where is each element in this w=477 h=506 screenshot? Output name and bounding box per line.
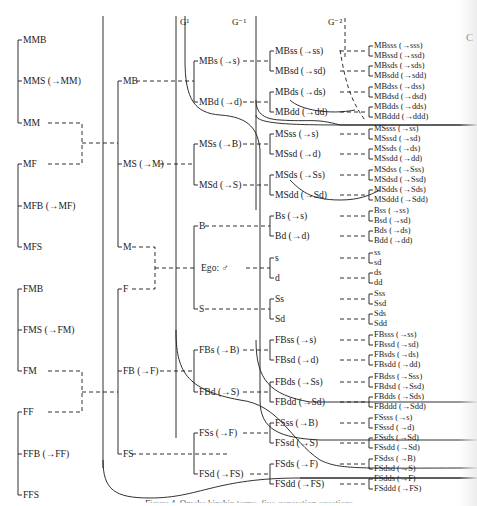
term-gen-minus-3: MBdds (→dds) (374, 102, 426, 111)
term-gen-minus-3: MBssd (→ssd) (374, 51, 425, 60)
term-gen-minus-3: FBsds (→ds) (374, 350, 418, 359)
term-gen-minus-3: FBsdd (→dd) (374, 360, 420, 369)
term-gen-minus-3: Bds (→ds) (374, 226, 411, 235)
term-ego: Ego: ♂ (201, 263, 229, 273)
term-s: S (199, 304, 204, 314)
term-gen-minus-2: FBds (→Ss) (275, 377, 323, 387)
term-fms: FMS (→FM) (23, 325, 74, 335)
term-gen-minus-2: MSsd (→d) (275, 149, 321, 159)
term-fbs: FBs (→B) (199, 345, 239, 355)
term-gen-minus-2: FSsd (→S) (275, 438, 318, 448)
term-gen-minus-3: ss (374, 248, 381, 257)
term-gen-minus-2: Bs (→s) (275, 211, 307, 221)
term-gen-minus-3: FBsss (→ss) (374, 330, 417, 339)
term-mbd: MBd (→d) (199, 97, 242, 107)
term-gen-minus-2: MSss (→s) (275, 129, 318, 139)
term-mbs: MBs (→s) (199, 56, 240, 66)
term-msd: MSd (→S) (199, 180, 241, 190)
term-ff: FF (23, 407, 34, 417)
term-gen-minus-2: MSds (→Ss) (275, 170, 325, 180)
term-f: F (123, 284, 128, 294)
term-gen-minus-2: Bd (→d) (275, 231, 309, 241)
term-gen-minus-3: Sds (374, 309, 386, 318)
term-gen-minus-3: Bdd (→dd) (374, 236, 412, 245)
term-mfs: MFS (23, 242, 42, 252)
term-gen-minus-2: FSdd (→FS) (275, 479, 324, 489)
term-gen-minus-3: FBdds (→Sds) (374, 392, 424, 401)
term-gen-minus-3: FSsss (→s) (374, 413, 412, 422)
term-m: M (123, 242, 132, 252)
term-gen-minus-2: FBss (→s) (275, 335, 316, 345)
term-mb: MB (123, 76, 138, 86)
term-gen-minus-2: d (275, 273, 280, 283)
term-b: B (199, 221, 205, 231)
term-gen-minus-2: MBdd (→dd) (275, 107, 328, 117)
term-fsd: FSd (→FS) (199, 469, 244, 479)
term-ffs: FFS (23, 490, 39, 500)
term-gen-minus-3: sd (374, 258, 381, 267)
term-gen-minus-2: MSdd (→Sd) (275, 190, 327, 200)
term-mms: MMS (→MM) (23, 76, 81, 86)
term-mmb: MMB (23, 35, 46, 45)
page-edge-shadow (459, 0, 477, 506)
term-ms: MS (→M) (123, 159, 164, 169)
term-mss: MSs (→B) (199, 139, 241, 149)
term-gen-minus-3: MSsds (→ds) (374, 144, 420, 153)
generation-label-g-minus-2: G⁻² (328, 17, 342, 27)
term-gen-minus-3: FSdss (→B) (374, 454, 416, 463)
term-gen-minus-3: FSsdd (→Sd) (374, 443, 420, 452)
term-fs: FS (123, 449, 134, 459)
term-gen-minus-3: MSsss (→ss) (374, 124, 418, 133)
term-mf: MF (23, 159, 37, 169)
term-gen-minus-2: FSss (→B) (275, 418, 318, 428)
term-gen-minus-3: Ssd (374, 299, 386, 308)
term-gen-minus-3: MBddd (→ddd) (374, 112, 428, 121)
term-gen-minus-3: FBddd (→Sdd) (374, 402, 426, 411)
term-fm: FM (23, 366, 37, 376)
term-gen-minus-2: FBsd (→d) (275, 355, 318, 365)
generation-label-g1: G¹ (180, 17, 189, 27)
term-gen-minus-3: FBdss (→Sss) (374, 372, 422, 381)
term-gen-minus-2: Sd (275, 314, 285, 324)
term-fb: FB (→F) (123, 366, 158, 376)
term-gen-minus-3: FSddd (→FS) (374, 484, 421, 493)
term-gen-minus-3: MBdsd (→dsd) (374, 92, 426, 101)
term-gen-minus-3: FSdds (→F) (374, 474, 416, 483)
term-gen-minus-3: dd (374, 278, 382, 287)
term-gen-minus-2: Ss (275, 294, 284, 304)
term-gen-minus-3: FSdsd (→S) (374, 464, 416, 473)
term-gen-minus-3: MSdsd (→Ssd) (374, 175, 426, 184)
term-gen-minus-3: MSdss (→Sss) (374, 165, 424, 174)
term-gen-minus-3: MSssd (→sd) (374, 134, 420, 143)
term-gen-minus-3: MBsdd (→sdd) (374, 71, 426, 80)
term-gen-minus-3: MSddd (→Sdd) (374, 195, 428, 204)
term-mfb: MFB (→MF) (23, 201, 76, 211)
term-gen-minus-3: FSssd (→d) (374, 423, 414, 432)
term-gen-minus-3: MSdds (→Sds) (374, 185, 426, 194)
term-gen-minus-2: FBdd (→Sd) (275, 397, 325, 407)
term-gen-minus-2: MBss (→ss) (275, 46, 323, 56)
term-fss: FSs (→F) (199, 428, 237, 438)
term-gen-minus-3: FBdsd (→Ssd) (374, 382, 424, 391)
term-gen-minus-3: MBsds (→sds) (374, 61, 425, 70)
term-gen-minus-3: MBdss (→dss) (374, 82, 425, 91)
term-gen-minus-3: Bss (→ss) (374, 206, 409, 215)
term-gen-minus-3: FBssd (→sd) (374, 340, 418, 349)
term-gen-minus-2: MBsd (→sd) (275, 66, 325, 76)
term-gen-minus-3: Bsd (→sd) (374, 216, 411, 225)
term-fmb: FMB (23, 284, 43, 294)
term-gen-minus-3: Sdd (374, 319, 387, 328)
term-gen-minus-3: FSsds (→Sd) (374, 433, 419, 442)
term-ffb: FFB (→FF) (23, 449, 69, 459)
generation-label-g-minus-1: G⁻¹ (232, 17, 246, 27)
term-fbd: FBd (→S) (199, 387, 239, 397)
term-gen-minus-3: ds (374, 268, 381, 277)
term-gen-minus-3: Sss (374, 289, 385, 298)
term-gen-minus-2: s (275, 253, 279, 263)
term-gen-minus-3: MSsdd (→dd) (374, 154, 422, 163)
term-mm: MM (23, 118, 40, 128)
term-gen-minus-2: MBds (→ds) (275, 87, 325, 97)
term-gen-minus-3: MBsss (→sss) (374, 41, 423, 50)
term-gen-minus-2: FSds (→F) (275, 459, 318, 469)
